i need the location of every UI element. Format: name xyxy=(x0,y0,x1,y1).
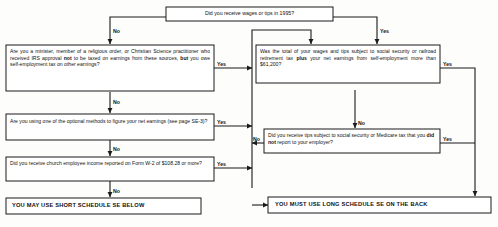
node-start-text: Did you receive wages or tips in 1995? xyxy=(168,10,331,16)
edge-wagebase-yes xyxy=(440,68,475,196)
node-unreported-tips-text: Did you receive tips subject to social s… xyxy=(268,132,437,145)
node-result-short-text: YOU MAY USE SHORT SCHEDULE SE BELOW xyxy=(12,202,200,208)
label-no-church: No xyxy=(113,188,120,194)
label-no-unreported: No xyxy=(253,136,260,142)
label-yes-minister: Yes xyxy=(217,61,226,67)
node-minister-text: Are you a minister, member of a religiou… xyxy=(10,48,210,68)
label-yes-start: Yes xyxy=(380,28,389,34)
label-no-wagebase: No xyxy=(358,120,365,126)
label-yes-church: Yes xyxy=(217,161,226,167)
schedule-se-flowchart: Did you receive wages or tips in 1995? A… xyxy=(0,0,498,227)
node-result-long-text: YOU MUST USE LONG SCHEDULE SE ON THE BAC… xyxy=(275,201,490,207)
node-optional-methods-text: Are you using one of the optional method… xyxy=(10,118,210,125)
node-church-income-text: Did you receive church employee income r… xyxy=(10,160,210,167)
flowchart-canvas: Did you receive wages or tips in 1995? A… xyxy=(0,0,498,227)
edge-start-to-wagebase-yes xyxy=(333,17,377,44)
node-wage-base-text: Was the total of your wages and tips sub… xyxy=(260,48,436,68)
label-yes-optional: Yes xyxy=(217,119,226,125)
label-no-minister: No xyxy=(113,99,120,105)
label-yes-wagebase: Yes xyxy=(443,61,452,67)
label-no-start: No xyxy=(113,28,120,34)
label-no-optional: No xyxy=(113,146,120,152)
label-yes-unreported: Yes xyxy=(443,136,452,142)
